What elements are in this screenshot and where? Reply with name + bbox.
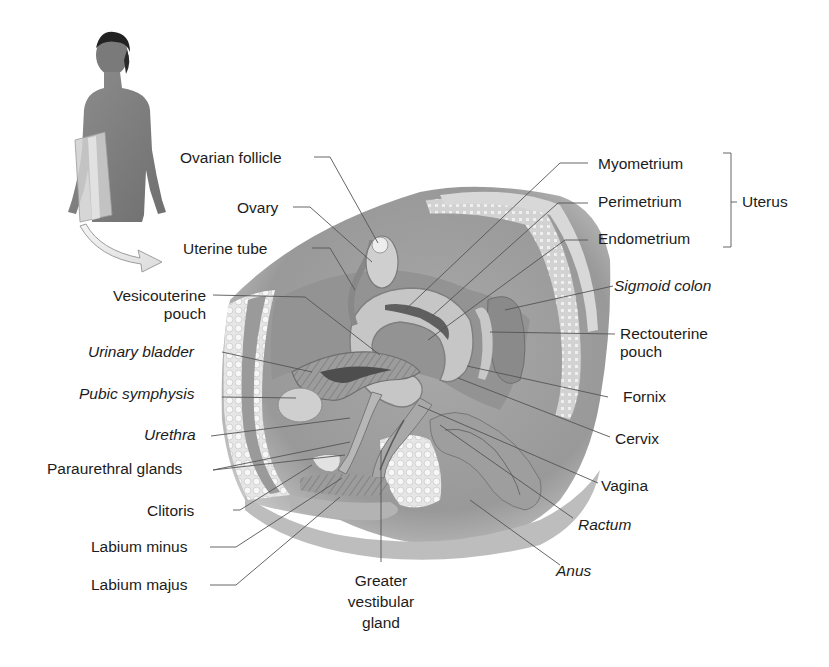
label-line: pouch	[96, 305, 206, 323]
label-fornix: Fornix	[623, 388, 666, 406]
label-line: pouch	[620, 343, 708, 361]
label-cervix: Cervix	[615, 430, 659, 448]
label-line: Rectouterine	[620, 325, 708, 343]
label-greater-vestibular-gland: Greater vestibular gland	[336, 570, 426, 633]
label-line: Vesicouterine	[96, 287, 206, 305]
label-paraurethral-glands: Paraurethral glands	[47, 460, 182, 478]
inset-figure	[68, 32, 166, 222]
label-perimetrium: Perimetrium	[598, 193, 682, 211]
label-endometrium: Endometrium	[598, 230, 690, 248]
label-vesicouterine-pouch: Vesicouterine pouch	[96, 287, 206, 323]
curved-arrow-icon	[80, 224, 162, 272]
label-line: gland	[336, 612, 426, 633]
label-labium-majus: Labium majus	[91, 576, 188, 594]
label-myometrium: Myometrium	[598, 155, 683, 173]
label-ovary: Ovary	[237, 199, 278, 217]
label-anus: Anus	[556, 562, 591, 580]
label-labium-minus: Labium minus	[91, 538, 188, 556]
label-sigmoid-colon: Sigmoid colon	[614, 277, 711, 295]
label-vagina: Vagina	[601, 477, 648, 495]
label-line: Greater	[336, 570, 426, 591]
label-rectouterine-pouch: Rectouterine pouch	[620, 325, 708, 361]
label-urinary-bladder: Urinary bladder	[88, 343, 194, 361]
label-uterus-group: Uterus	[742, 193, 788, 211]
label-urethra: Urethra	[144, 426, 196, 444]
pelvis-section	[222, 187, 611, 560]
label-ovarian-follicle: Ovarian follicle	[180, 149, 282, 167]
label-ractum: Ractum	[578, 516, 631, 534]
label-pubic-symphysis: Pubic symphysis	[79, 385, 194, 403]
label-line: vestibular	[336, 591, 426, 612]
label-uterine-tube: Uterine tube	[183, 240, 267, 258]
label-clitoris: Clitoris	[147, 502, 194, 520]
